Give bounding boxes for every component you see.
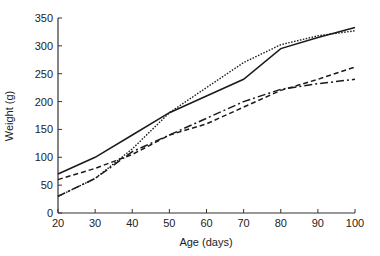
series-lines [58, 28, 355, 197]
x-tick-label: 50 [163, 217, 175, 229]
y-tick-label: 350 [35, 12, 53, 24]
x-tick-label: 20 [52, 217, 64, 229]
x-tick-label: 70 [238, 217, 250, 229]
line-chart: 0501001502002503003502030405060708090100… [0, 0, 380, 256]
series-dashed [58, 67, 355, 180]
x-tick-label: 60 [200, 217, 212, 229]
series-dotted [58, 31, 355, 197]
x-tick-label: 80 [275, 217, 287, 229]
series-dash-dot [58, 79, 355, 196]
y-tick-label: 300 [35, 40, 53, 52]
x-tick-label: 90 [312, 217, 324, 229]
x-tick-label: 40 [126, 217, 138, 229]
x-axis-label: Age (days) [179, 236, 232, 248]
y-tick-label: 250 [35, 68, 53, 80]
y-tick-label: 50 [41, 179, 53, 191]
axes: 0501001502002503003502030405060708090100 [35, 12, 365, 229]
y-tick-label: 150 [35, 123, 53, 135]
series-solid [58, 28, 355, 175]
y-tick-label: 200 [35, 96, 53, 108]
x-tick-label: 100 [346, 217, 364, 229]
y-tick-label: 100 [35, 151, 53, 163]
x-tick-label: 30 [89, 217, 101, 229]
y-axis-label: Weight (g) [3, 91, 15, 142]
